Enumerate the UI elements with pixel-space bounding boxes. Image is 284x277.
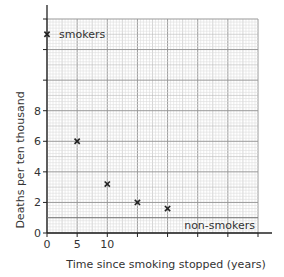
y-tick-label: 4 <box>34 166 41 179</box>
y-tick-label: 6 <box>34 135 41 148</box>
y-tick-label: 0 <box>34 227 41 240</box>
grid <box>47 19 258 233</box>
annotation-non-smokers: non-smokers <box>184 219 255 232</box>
x-tick-label: 10 <box>100 238 114 251</box>
y-axis-label: Deaths per ten thousand <box>14 91 27 228</box>
x-axis-label: Time since smoking stopped (years) <box>65 258 265 271</box>
annotation-smokers: smokers <box>59 28 105 41</box>
x-tick-label: 5 <box>74 238 81 251</box>
y-tick-label: 8 <box>34 105 41 118</box>
y-tick-label: 2 <box>34 196 41 209</box>
chart: 051002468 smokersnon-smokers Time since … <box>0 0 284 277</box>
x-tick-label: 0 <box>44 238 51 251</box>
